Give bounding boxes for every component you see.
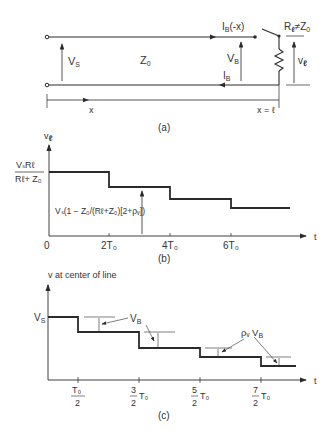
vl-label: vℓ xyxy=(298,55,307,68)
t-axis-label: t xyxy=(314,232,317,242)
vb-step-label: VB xyxy=(130,313,142,325)
switch-arm xyxy=(262,29,279,36)
rho-vb-step-label: ρᵥ VB xyxy=(241,327,263,339)
figure-a-circuit: VS Z0 VB IB(-x) IB Rℓ≠Z0 vℓ x x = ℓ (a) xyxy=(45,21,310,133)
initial-level-numerator: VₛRℓ xyxy=(16,160,36,170)
svg-text:5: 5 xyxy=(192,385,197,395)
tick-t0-over-2: T₀ 2 xyxy=(71,385,85,408)
tick-7-over-2-t0: 7 2 T₀ xyxy=(252,385,270,408)
tick-4t0: 4T₀ xyxy=(162,240,178,251)
caption-c: (c) xyxy=(158,410,170,421)
svg-text:2: 2 xyxy=(131,398,136,408)
initial-level-denominator: Rℓ+ Z₀ xyxy=(15,174,42,184)
svg-text:T₀: T₀ xyxy=(200,391,209,401)
x-equals-l-label: x = ℓ xyxy=(257,105,276,115)
center-voltage-staircase xyxy=(48,317,296,366)
figure-b-load-voltage-plot: vℓ t 0 2T₀ 4T₀ 6T₀ VₛRℓ Rℓ+ Z₀ Vₛ(1 − Z₀… xyxy=(15,131,317,264)
svg-text:T₀: T₀ xyxy=(139,391,148,401)
svg-text:7: 7 xyxy=(253,385,258,395)
svg-text:T₀: T₀ xyxy=(261,391,270,401)
second-level-formula: Vₛ(1 − Z₀/(Rℓ+Z₀)[2+ρᵥ]) xyxy=(55,206,145,216)
t-axis-label: t xyxy=(314,376,317,386)
vl-axis-label: vℓ xyxy=(44,131,53,143)
vs-level-label: VS xyxy=(34,312,46,324)
tick-2t0: 2T₀ xyxy=(101,240,117,251)
ib-minus-x-label: IB(-x) xyxy=(222,21,244,33)
svg-text:3: 3 xyxy=(131,385,136,395)
svg-text:2: 2 xyxy=(75,398,80,408)
figure-c-center-voltage-plot: v at center of line t VS VB ρᵥ VB T₀ xyxy=(34,270,317,421)
svg-text:T₀: T₀ xyxy=(72,385,81,395)
transmission-line-diagram: VS Z0 VB IB(-x) IB Rℓ≠Z0 vℓ x x = ℓ (a) … xyxy=(0,0,335,434)
caption-a: (a) xyxy=(158,122,170,133)
tick-5-over-2-t0: 5 2 T₀ xyxy=(191,385,209,408)
ib-bottom-label: IB xyxy=(223,70,231,82)
x-label: x xyxy=(89,105,94,115)
input-terminal-top xyxy=(45,35,49,39)
center-voltage-axis-label: v at center of line xyxy=(48,270,117,280)
load-voltage-staircase xyxy=(49,172,290,208)
tick-6t0: 6T₀ xyxy=(223,240,239,251)
current-arrow-forward xyxy=(210,35,216,40)
input-terminal-bottom xyxy=(45,83,49,87)
vs-label: VS xyxy=(68,55,80,68)
rl-neq-z0-label: Rℓ≠Z0 xyxy=(284,21,310,33)
load-resistor xyxy=(275,49,283,71)
svg-text:2: 2 xyxy=(192,398,197,408)
tick-3-over-2-t0: 3 2 T₀ xyxy=(130,385,148,408)
svg-text:2: 2 xyxy=(253,398,258,408)
caption-b: (b) xyxy=(158,253,170,264)
current-arrow-return xyxy=(219,83,225,88)
z0-label: Z0 xyxy=(140,54,151,67)
tick-0: 0 xyxy=(44,240,50,251)
vb-label: VB xyxy=(227,52,239,65)
switch-contact xyxy=(253,35,257,39)
